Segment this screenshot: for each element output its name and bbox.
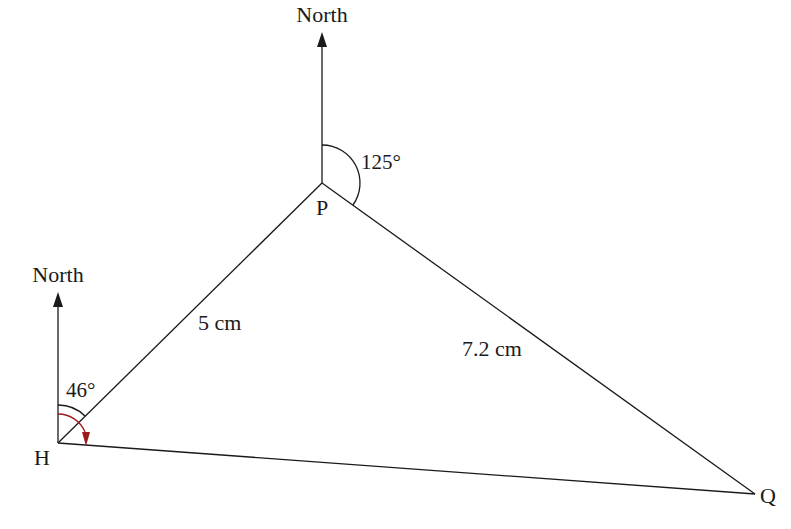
- bearing-arrow-h: [58, 414, 90, 446]
- arrowhead-icon: [82, 432, 90, 446]
- north-arrow-h: [53, 292, 63, 443]
- angle-label-p: 125°: [361, 150, 401, 174]
- arrowhead-icon: [317, 32, 327, 47]
- arrowhead-icon: [53, 292, 63, 307]
- side-hq: [58, 443, 755, 494]
- side-label-hp: 5 cm: [198, 310, 241, 335]
- side-hp: [58, 183, 322, 443]
- north-arrow-p: [317, 32, 327, 183]
- vertex-label-q: Q: [760, 483, 776, 508]
- side-label-pq: 7.2 cm: [462, 336, 522, 361]
- angle-label-h: 46°: [66, 378, 95, 402]
- north-label-p: North: [296, 2, 347, 27]
- north-label-h: North: [32, 262, 83, 287]
- bearings-diagram: North North P H Q 125° 46° 5 cm 7.2 cm: [0, 0, 791, 529]
- vertex-label-p: P: [316, 195, 328, 220]
- vertex-label-h: H: [34, 445, 50, 470]
- side-pq: [322, 183, 755, 494]
